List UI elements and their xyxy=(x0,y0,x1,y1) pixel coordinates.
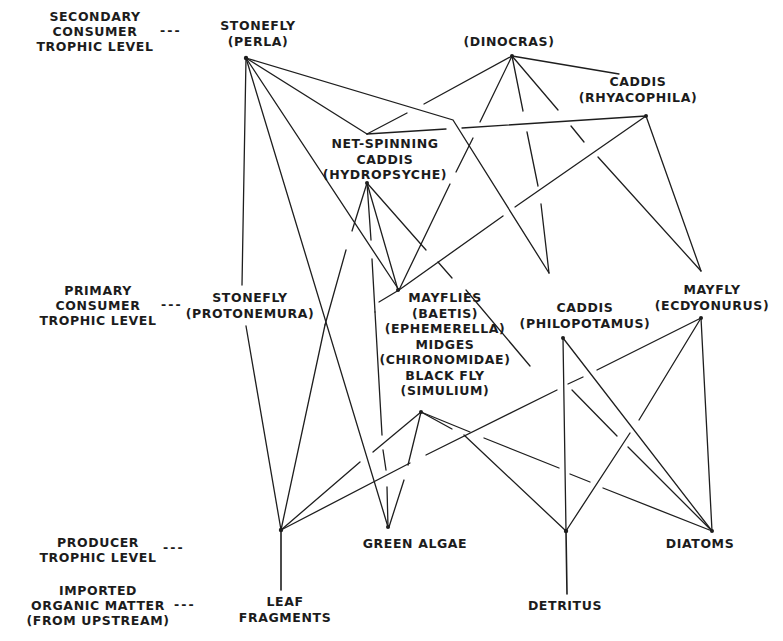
node-green-algae: GREEN ALGAE xyxy=(350,536,480,552)
node-philopotamus: CADDIS (PHILOPOTAMUS) xyxy=(515,300,655,331)
level-label-primary: PRIMARY CONSUMER TROPHIC LEVEL xyxy=(28,283,168,328)
level-label-producer: PRODUCER TROPHIC LEVEL xyxy=(28,535,168,565)
node-diatoms: DIATOMS xyxy=(650,536,750,552)
node-protonemura: STONEFLY (PROTONEMURA) xyxy=(180,290,320,321)
node-ecdyonurus: MAYFLY (ECDYONURUS) xyxy=(652,282,772,313)
node-leaf-fragments: LEAF FRAGMENTS xyxy=(230,594,340,625)
protonemura-edges xyxy=(246,326,281,530)
level-connector-imported: --- xyxy=(174,597,196,612)
node-dinocras: (DINOCRAS) xyxy=(444,34,574,50)
level-connector-secondary: --- xyxy=(160,23,182,38)
node-mayflies-group: MAYFLIES (BAETIS) (EPHEMERELLA) MIDGES (… xyxy=(370,290,520,399)
node-hydropsyche: NET-SPINNING CADDIS (HYDROPSYCHE) xyxy=(310,136,460,183)
level-label-imported: IMPORTED ORGANIC MATTER (FROM UPSTREAM) xyxy=(13,583,183,628)
node-detritus: DETRITUS xyxy=(515,598,615,614)
node-rhyacophila: CADDIS (RHYACOPHILA) xyxy=(568,74,708,105)
level-connector-producer: --- xyxy=(163,540,185,555)
node-perla: STONEFLY (PERLA) xyxy=(208,18,308,49)
level-label-secondary: SECONDARY CONSUMER TROPHIC LEVEL xyxy=(25,9,165,54)
mayflies-edges xyxy=(281,410,712,531)
